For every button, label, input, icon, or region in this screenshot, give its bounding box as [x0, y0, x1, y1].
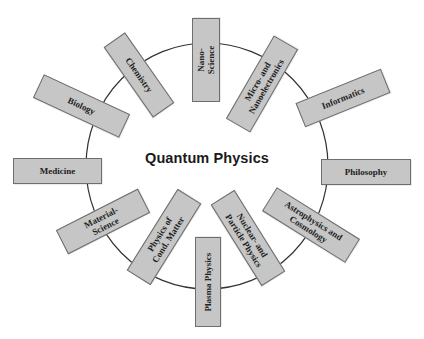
topic-plasma-physics: Plasma Physics: [195, 237, 221, 327]
topic-philosophy: Philosophy: [321, 159, 411, 185]
center-title: Quantum Physics: [107, 150, 307, 166]
topic-label: Philosophy: [345, 167, 388, 177]
topic-nano-science: Nano- Science: [192, 18, 220, 102]
topic-label: Biology: [66, 95, 97, 116]
topic-label: Plasma Physics: [203, 253, 213, 312]
topic-medicine: Medicine: [13, 158, 102, 184]
topic-label: Medicine: [40, 166, 76, 176]
quantum-physics-diagram: Quantum Physics Nano- Science Micro- and…: [0, 0, 424, 339]
topic-label: Nano- Science: [196, 46, 216, 75]
